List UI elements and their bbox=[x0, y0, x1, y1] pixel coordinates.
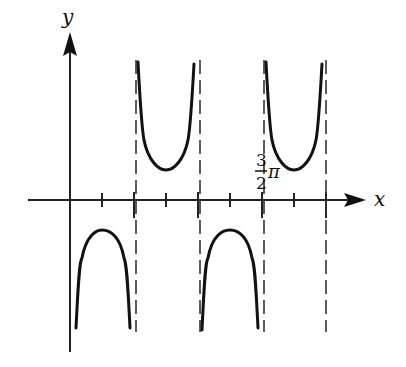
pi-symbol: π bbox=[267, 161, 281, 182]
x-axis-label: x bbox=[374, 187, 385, 211]
y-axis-label: y bbox=[61, 5, 74, 29]
branch-down-1 bbox=[76, 230, 130, 328]
branch-up-2 bbox=[266, 62, 322, 170]
branch-down-2 bbox=[202, 230, 258, 330]
frac-numerator: 3 bbox=[256, 150, 267, 170]
branch-up-1 bbox=[138, 62, 194, 170]
frac-denominator: 2 bbox=[256, 173, 267, 193]
function-graph: x y 3 2 π bbox=[0, 0, 406, 367]
